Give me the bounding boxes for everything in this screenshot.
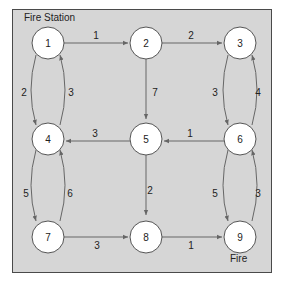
fire-label: Fire [230, 253, 248, 264]
edge-weight: 5 [23, 188, 29, 199]
edge-weight: 3 [68, 87, 74, 98]
edge-weight: 6 [67, 188, 73, 199]
fire-station-label: Fire Station [24, 12, 75, 23]
edge-weight: 2 [188, 30, 194, 41]
edge-weight: 3 [255, 188, 261, 199]
node-label: 3 [237, 38, 243, 49]
node-label: 6 [237, 134, 243, 145]
edge-weight: 5 [212, 188, 218, 199]
edge-weight: 1 [93, 30, 99, 41]
node-label: 8 [143, 232, 149, 243]
fire-route-network-diagram: Fire Station Fire 1 2 2 3 7 3 [0, 0, 281, 284]
edge-weight: 3 [94, 240, 100, 251]
node-6: 6 [224, 123, 256, 155]
node-9: 9 [224, 221, 256, 253]
edge-weight: 1 [187, 128, 193, 139]
node-4: 4 [32, 123, 64, 155]
edge-weight: 3 [212, 87, 218, 98]
edge-weight: 7 [152, 87, 158, 98]
node-label: 7 [45, 232, 51, 243]
node-3: 3 [224, 27, 256, 59]
node-7: 7 [32, 221, 64, 253]
node-1: 1 [32, 27, 64, 59]
edge-weight: 2 [21, 87, 27, 98]
node-label: 5 [143, 134, 149, 145]
node-label: 1 [45, 38, 51, 49]
node-label: 9 [237, 232, 243, 243]
edge-weight: 4 [255, 87, 261, 98]
edge-weight: 3 [92, 128, 98, 139]
node-label: 4 [45, 134, 51, 145]
edge-weight: 2 [147, 185, 153, 196]
edge-weight: 1 [188, 240, 194, 251]
node-label: 2 [143, 38, 149, 49]
node-2: 2 [130, 27, 162, 59]
node-8: 8 [130, 221, 162, 253]
node-5: 5 [130, 123, 162, 155]
